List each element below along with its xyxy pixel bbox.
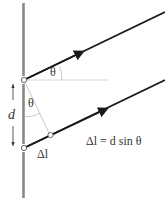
upper-slit: [21, 77, 26, 82]
slit-separation-label: d: [8, 107, 16, 122]
equation-label: Δl = d sin θ: [86, 134, 142, 148]
theta-lower-label: θ: [28, 96, 34, 110]
theta-upper-arc: [60, 67, 63, 81]
upper-ray: [26, 12, 165, 79]
path-difference-label: Δl: [37, 147, 49, 161]
lower-slit: [21, 145, 26, 150]
perpendicular-foot-point: [48, 132, 53, 137]
double-slit-diagram: θ θ d Δl Δl = d sin θ: [0, 0, 165, 201]
theta-lower-arc: [24, 114, 40, 118]
theta-upper-label: θ: [50, 65, 56, 79]
